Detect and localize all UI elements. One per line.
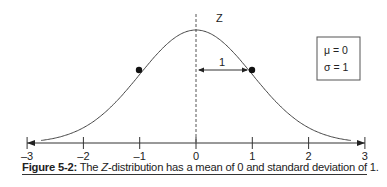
svg-text:–2: –2 bbox=[77, 150, 89, 160]
distance-label: 1 bbox=[219, 56, 225, 68]
svg-text:3: 3 bbox=[362, 150, 368, 160]
mu-label: μ = 0 bbox=[324, 44, 348, 56]
caption-text-after: -distribution has a mean of 0 and standa… bbox=[108, 161, 379, 173]
right-arrow-icon bbox=[357, 140, 365, 146]
inflection-point-left bbox=[136, 67, 142, 73]
x-tick-labels: –3–2–10123 bbox=[21, 150, 368, 160]
svg-text:1: 1 bbox=[249, 150, 255, 160]
figure-label: Figure 5-2: bbox=[22, 161, 77, 173]
caption-italic: Z bbox=[101, 161, 108, 173]
figure-caption: Figure 5-2: The Z-distribution has a mea… bbox=[22, 161, 367, 175]
z-distribution-chart: –3–2–10123 Z 1 μ = 0 σ = 1 bbox=[0, 0, 387, 160]
left-arrow-icon bbox=[27, 140, 35, 146]
arrow-left-icon bbox=[198, 68, 204, 73]
caption-text: The bbox=[77, 161, 101, 173]
svg-text:–3: –3 bbox=[21, 150, 33, 160]
svg-text:–1: –1 bbox=[134, 150, 146, 160]
svg-text:2: 2 bbox=[306, 150, 312, 160]
sigma-label: σ = 1 bbox=[324, 61, 348, 73]
z-label: Z bbox=[216, 12, 223, 24]
inflection-point-right bbox=[249, 67, 255, 73]
svg-text:0: 0 bbox=[193, 150, 199, 160]
